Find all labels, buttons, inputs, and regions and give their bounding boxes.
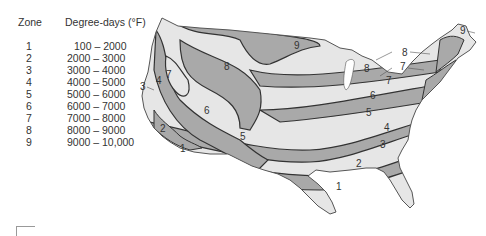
zone-range: 6000 – 7000	[67, 100, 125, 112]
zone-number: 9	[26, 136, 32, 148]
callout-label: 7	[400, 61, 406, 72]
zone-range: 2000 – 3000	[67, 52, 125, 64]
zone-label: 4	[156, 75, 162, 86]
zone-number: 5	[26, 88, 32, 100]
zone-range: 8000 – 9000	[67, 124, 125, 136]
zone-number: 2	[26, 52, 32, 64]
zone-label: 1	[336, 181, 342, 192]
callout-label: 8	[402, 47, 408, 58]
zone-range: 9000 – 10,000	[67, 136, 134, 148]
zone-label: 7	[166, 69, 172, 80]
zone-range: 3000 – 4000	[67, 64, 125, 76]
us-degree-day-map: 9 8 7 6 5 4 3 2 1 7 8 6 5 2 1 4 9 8 7 3	[140, 0, 486, 236]
zone-number: 8	[26, 124, 32, 136]
legend-degree-days-header: Degree-days (°F)	[65, 16, 146, 28]
zone-range: 7000 – 8000	[67, 112, 125, 124]
zone-label: 5	[366, 107, 372, 118]
zone-label: 7	[386, 75, 392, 86]
zone-number: 1	[26, 40, 32, 52]
zone-label: 5	[240, 131, 246, 142]
zone-number: 6	[26, 100, 32, 112]
zone-range: 100 – 2000	[74, 40, 127, 52]
zone-label: 2	[160, 123, 166, 134]
corner-mark	[16, 226, 35, 236]
zone-label: 3	[380, 139, 386, 150]
zone-range: 5000 – 6000	[67, 88, 125, 100]
zone-label: 9	[294, 40, 300, 51]
zone-number: 7	[26, 112, 32, 124]
callout-label: 9	[460, 25, 466, 36]
zone-range: 4000 – 5000	[67, 76, 125, 88]
zone-label: 8	[364, 63, 370, 74]
zone-number: 4	[26, 76, 32, 88]
zone-label: 4	[384, 122, 390, 133]
legend-zone-header: Zone	[18, 16, 42, 28]
zone-label: 8	[224, 61, 230, 72]
callout-label: 3	[140, 81, 146, 92]
zone-label: 6	[370, 90, 376, 101]
zone-label: 1	[180, 143, 186, 154]
zone-label: 2	[356, 158, 362, 169]
zone-number: 3	[26, 64, 32, 76]
zone-label: 6	[204, 105, 210, 116]
